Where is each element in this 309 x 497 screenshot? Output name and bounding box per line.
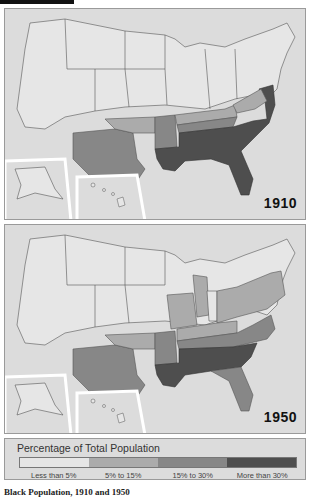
year-label-1910: 1910 (264, 195, 297, 211)
legend-swatch-less-than-5 (20, 458, 89, 467)
header-bar (0, 0, 74, 4)
year-label-1950: 1950 (264, 409, 297, 425)
legend-color-bar (19, 457, 297, 468)
map-panel-1950: 1950 (4, 224, 306, 434)
us-map-1910 (5, 9, 306, 220)
us-map-1950 (5, 225, 306, 434)
legend: Percentage of Total Population Less than… (4, 438, 306, 480)
legend-label: More than 30% (228, 471, 298, 480)
figure-caption: Black Population, 1910 and 1950 (4, 487, 130, 497)
legend-label: 5% to 15% (89, 471, 159, 480)
legend-label: 15% to 30% (158, 471, 228, 480)
legend-label: Less than 5% (19, 471, 89, 480)
legend-swatch-5-to-15 (89, 458, 158, 467)
legend-labels: Less than 5% 5% to 15% 15% to 30% More t… (19, 471, 297, 480)
legend-swatch-more-than-30 (227, 458, 296, 467)
legend-title: Percentage of Total Population (17, 442, 160, 454)
legend-swatch-15-to-30 (158, 458, 227, 467)
map-panel-1910: 1910 (4, 8, 306, 220)
